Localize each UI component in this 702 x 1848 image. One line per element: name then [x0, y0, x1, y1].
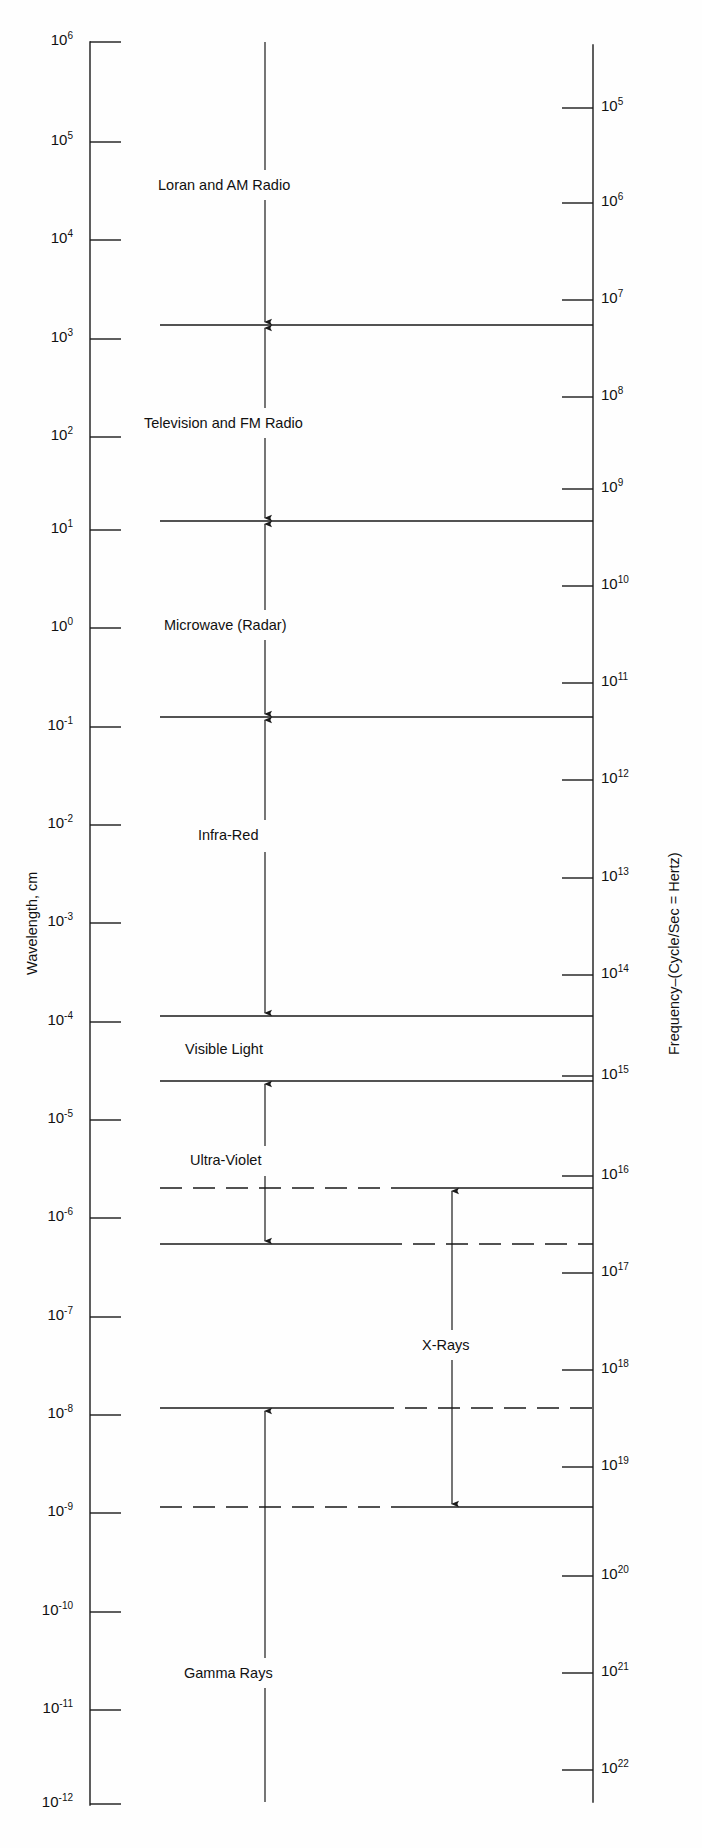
band-label-x-rays: X-Rays [422, 1337, 470, 1353]
right-tick-label: 1012 [601, 769, 629, 786]
left-tick-label: 102 [51, 426, 73, 443]
left-tick-label: 104 [51, 229, 73, 246]
right-tick-label: 1017 [601, 1262, 629, 1279]
right-tick-label: 1020 [601, 1565, 629, 1582]
band-label-microwave-radar: Microwave (Radar) [164, 617, 286, 633]
left-tick-label: 10-10 [42, 1601, 73, 1618]
left-tick-label: 10-1 [47, 716, 73, 733]
left-tick-label: 103 [51, 328, 73, 345]
right-tick-label: 106 [601, 192, 623, 209]
right-tick-label: 1019 [601, 1456, 629, 1473]
left-tick-label: 10-6 [47, 1207, 73, 1224]
right-tick-label: 108 [601, 386, 623, 403]
right-tick-label: 1014 [601, 964, 629, 981]
left-tick-label: 10-4 [47, 1011, 73, 1028]
left-tick-label: 10-8 [47, 1404, 73, 1421]
right-tick-label: 1022 [601, 1759, 629, 1776]
left-tick-label: 105 [51, 131, 73, 148]
left-tick-label: 106 [51, 31, 73, 48]
band-label-gamma-rays: Gamma Rays [184, 1665, 273, 1681]
left-tick-label: 10-3 [47, 912, 73, 929]
band-label-infra-red: Infra-Red [198, 827, 258, 843]
left-tick-label: 10-11 [43, 1699, 73, 1716]
left-tick-label: 10-5 [47, 1109, 73, 1126]
band-boundaries [160, 325, 593, 1507]
right-tick-label: 107 [601, 289, 623, 306]
left-axis-title: Wavelength, cm [24, 872, 40, 975]
band-label-visible-light: Visible Light [185, 1041, 263, 1057]
right-tick-label: 1016 [601, 1165, 629, 1182]
electromagnetic-spectrum-figure: 106 105 104 103 102 101 100 10-1 10-2 10… [0, 0, 702, 1848]
right-tick-label: 1015 [601, 1065, 629, 1082]
axis-lines [90, 42, 593, 1805]
right-tick-label: 1018 [601, 1359, 629, 1376]
band-label-loran-am-radio: Loran and AM Radio [158, 177, 290, 193]
right-tick-label: 105 [601, 97, 623, 114]
left-axis-ticks [90, 42, 121, 1804]
spectrum-chart-canvas [0, 0, 702, 1848]
right-tick-label: 1021 [601, 1662, 629, 1679]
right-axis-ticks [562, 108, 593, 1770]
left-tick-label: 10-9 [47, 1502, 73, 1519]
band-label-ultra-violet: Ultra-Violet [190, 1152, 261, 1168]
left-tick-label: 10-2 [47, 814, 73, 831]
right-tick-label: 1011 [601, 672, 628, 689]
left-tick-label: 101 [51, 519, 73, 536]
right-tick-label: 1010 [601, 575, 629, 592]
band-arrows [265, 42, 452, 1802]
right-tick-label: 1013 [601, 867, 629, 884]
left-tick-label: 10-12 [42, 1793, 73, 1810]
right-tick-label: 109 [601, 478, 623, 495]
left-tick-label: 100 [51, 617, 73, 634]
right-axis-title: Frequency–(Cycle/Sec = Hertz) [666, 852, 682, 1055]
band-label-television-fm-radio: Television and FM Radio [144, 415, 303, 431]
left-tick-label: 10-7 [47, 1306, 73, 1323]
